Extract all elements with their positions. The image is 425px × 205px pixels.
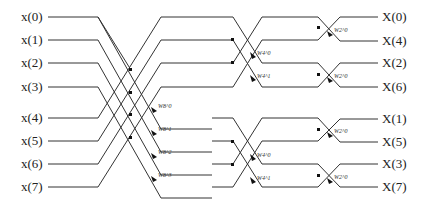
stage1-wires (48, 17, 212, 198)
input-label-3: x(3) (21, 79, 43, 94)
twiddle-s1-0: W8^0 (158, 103, 172, 109)
output-label-0: X(0) (382, 9, 407, 24)
output-label-1: X(4) (382, 33, 407, 48)
wire-s1-3-down (48, 87, 212, 198)
stage3-nodes (317, 26, 320, 177)
input-label-1: x(1) (21, 32, 43, 47)
twiddle-s2-2: W4^0 (257, 152, 271, 158)
input-label-7: x(7) (21, 179, 43, 194)
input-label-5: x(5) (21, 133, 43, 148)
twiddle-s1-3: W8^3 (158, 172, 172, 178)
node-s1-1 (129, 91, 132, 94)
input-label-6: x(6) (21, 156, 43, 171)
output-label-6: X(3) (382, 156, 407, 171)
node-s2-0 (231, 38, 234, 41)
twiddle-s3-3: W2^0 (334, 174, 348, 180)
node-s1-2 (129, 113, 132, 116)
input-labels: x(0) x(1) x(2) x(3) x(4) x(5) x(6) x(7) (21, 9, 43, 194)
stage3-twiddles: W2^0 W2^0 W2^0 W2^0 (327, 27, 348, 184)
input-label-0: x(0) (21, 9, 43, 24)
node-s3-0 (317, 26, 320, 29)
output-label-7: X(7) (382, 179, 407, 194)
wire-s1-5-up (48, 40, 212, 141)
stage1-twiddles: W8^0 W8^1 W8^2 W8^3 (151, 103, 172, 182)
output-label-3: X(6) (382, 79, 407, 94)
stage3-wires (302, 17, 378, 187)
stage1-nodes (129, 68, 132, 139)
twiddle-s2-0: W4^0 (257, 50, 271, 56)
node-s1-3 (129, 136, 132, 139)
stage1-straight (98, 17, 131, 70)
wire-s1-2-down (48, 63, 212, 175)
node-s3-3 (317, 174, 320, 177)
twiddle-s3-0: W2^0 (334, 27, 348, 33)
stage2-nodes (231, 38, 234, 166)
twiddle-s1-2: W8^2 (158, 149, 172, 155)
node-s3-2 (317, 128, 320, 131)
twiddle-s3-1: W2^0 (334, 73, 348, 79)
output-label-5: X(5) (382, 134, 407, 149)
node-s2-2 (231, 140, 234, 143)
arrow-icon (250, 177, 256, 184)
output-label-4: X(1) (382, 111, 407, 126)
twiddle-s3-2: W2^0 (334, 128, 348, 134)
input-label-4: x(4) (21, 110, 43, 125)
input-label-2: x(2) (21, 55, 43, 70)
node-s1-0 (129, 68, 132, 71)
wire-s1-1-down (48, 40, 212, 152)
wire-s1-a (98, 17, 131, 70)
twiddle-s2-1: W4^1 (257, 73, 271, 79)
output-labels: X(0) X(4) X(2) X(6) X(1) X(5) X(3) X(7) (382, 9, 407, 194)
node-s2-1 (231, 61, 234, 64)
twiddle-s1-1: W8^1 (158, 126, 172, 132)
node-s3-1 (317, 73, 320, 76)
output-label-2: X(2) (382, 55, 407, 70)
fft-butterfly-diagram: x(0) x(1) x(2) x(3) x(4) x(5) x(6) x(7) … (0, 0, 425, 205)
node-s2-3 (231, 163, 234, 166)
twiddle-s2-3: W4^1 (257, 175, 271, 181)
